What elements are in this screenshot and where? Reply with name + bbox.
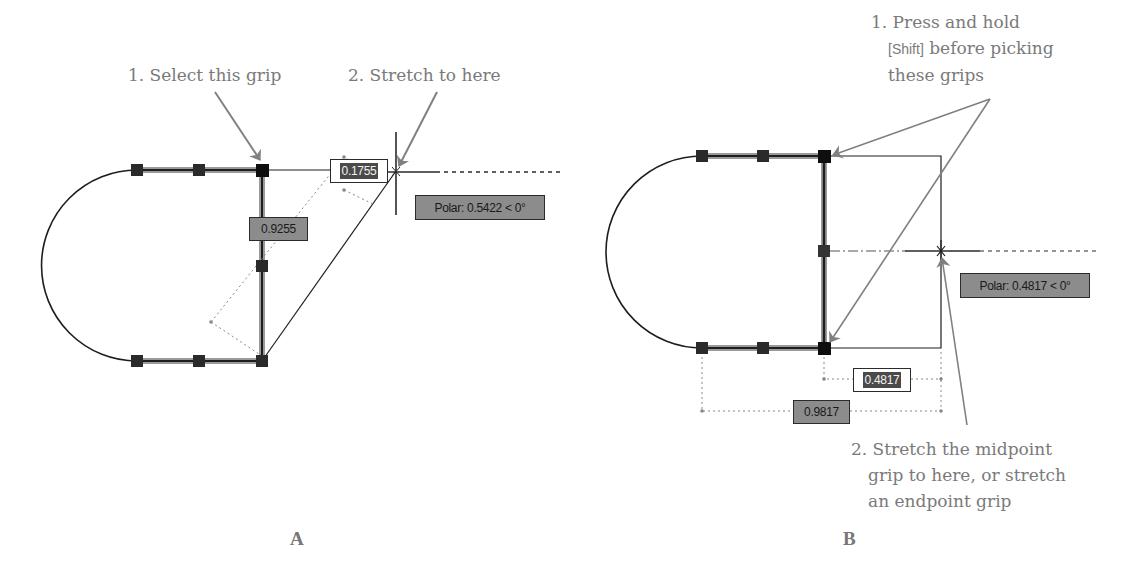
grip-b-bottom-left [696,342,708,354]
arrow-a2 [399,92,437,166]
grip-a-bottom-right [256,355,268,367]
arrow-a1 [215,92,260,160]
callout-b2-line2: grip to here, or stretch [851,462,1066,488]
dynamic-input-b-value: 0.4817 [863,372,902,388]
panel-label-b: B [843,528,856,550]
grip-b-vertical-mid [818,245,830,257]
polar-tooltip-a: Polar: 0.5422 < 0° [415,195,545,220]
callout-b2: 2. Stretch the midpoint grip to here, or… [851,436,1066,514]
grip-a-bottom-left [131,355,143,367]
callout-b1-line3: these grips [871,62,1054,88]
polar-tooltip-b: Polar: 0.4817 < 0° [960,273,1090,298]
arc-a [42,170,137,361]
arc-b [606,156,702,348]
dimension-a: 0.9255 [249,217,308,241]
grip-b-bottom-mid [757,342,769,354]
dynamic-input-a[interactable]: 0.1755 [330,159,388,183]
panel-label-a: A [290,528,304,550]
grip-a-vertical-mid [256,260,268,272]
dimension-b: 0.9817 [793,400,850,424]
callout-b2-line3: an endpoint grip [851,488,1066,514]
callout-b2-line1: 2. Stretch the midpoint [851,439,1052,459]
grip-a-top-mid [193,164,205,176]
callout-b1: 1. Press and hold [Shift] before picking… [871,9,1054,88]
grip-a-top-right-selected [256,164,269,177]
arrow-b1-top [833,99,990,155]
arrow-b1-bottom [830,99,990,342]
grip-a-bottom-mid [193,355,205,367]
grip-b-top-mid [757,150,769,162]
callout-a1: 1. Select this grip [128,62,281,88]
callout-b1-line1: 1. Press and hold [871,12,1020,32]
grip-b-top-right-selected [818,150,831,163]
grip-b-top-left [696,150,708,162]
dynamic-input-b[interactable]: 0.4817 [853,368,911,392]
grip-a-top-left [131,164,143,176]
callout-b1-line2: [Shift] before picking [871,35,1054,62]
figure-canvas: 1. Select this grip 2. Stretch to here 0… [0,0,1143,584]
grip-b-bottom-right-selected [818,342,831,355]
shift-key-label: [Shift] [888,41,924,57]
dynamic-input-a-value: 0.1755 [340,163,379,179]
callout-a2: 2. Stretch to here [348,62,501,88]
